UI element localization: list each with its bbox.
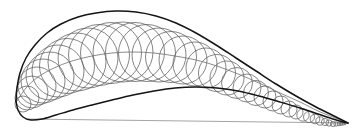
inscribed-circle: [58, 28, 118, 88]
airfoil-outline-group: [16, 11, 348, 123]
inscribed-circles-group: [15, 22, 346, 127]
chord-line: [25, 119, 348, 123]
inscribed-circle: [132, 28, 186, 82]
upper-surface-curve: [16, 11, 348, 123]
chord-line-group: [25, 119, 348, 123]
inscribed-circle: [48, 33, 106, 91]
inscribed-circle: [321, 118, 328, 125]
airfoil-svg: [0, 0, 364, 137]
inscribed-circle: [119, 25, 176, 82]
airfoil-diagram: [0, 0, 364, 137]
inscribed-circle: [344, 123, 346, 125]
inscribed-circle: [233, 74, 261, 102]
